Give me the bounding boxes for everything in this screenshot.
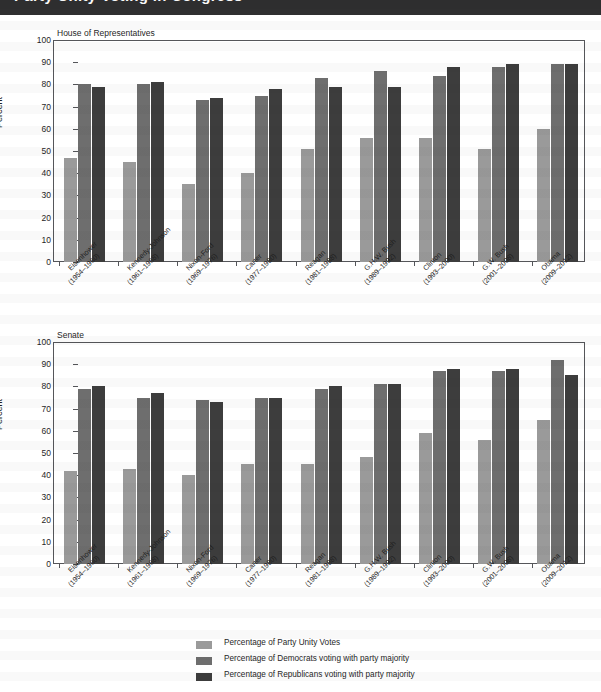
bar [506,369,519,564]
y-tick-label: 70 [25,103,51,112]
bar [478,149,491,262]
chart-legend: Percentage of Party Unity VotesPercentag… [196,637,556,685]
y-tick-label: 80 [25,382,51,391]
bar [537,129,550,262]
bar [565,64,578,262]
bar [241,173,254,262]
bar-group [360,40,401,262]
bar [329,87,342,262]
y-axis-ticks-house: 0102030405060708090100 [20,40,51,262]
bar [433,76,446,262]
bar [301,149,314,262]
y-tick-label: 30 [25,493,51,502]
y-tick-label: 100 [25,338,51,347]
bar [92,386,105,564]
bar [506,64,519,262]
bar [182,475,195,564]
bar [478,440,491,564]
y-tick-label: 10 [25,236,51,245]
bar-group [241,40,282,262]
bar-groups-house [53,40,585,262]
bar [419,433,432,564]
legend-label: Percentage of Democrats voting with part… [224,654,409,663]
y-tick-label: 90 [25,360,51,369]
chart-panel-senate: Senate Percent 0102030405060708090100 Ei… [0,330,601,642]
bar-group [64,342,105,564]
bar-group [419,342,460,564]
legend-swatch [196,657,212,665]
bar [269,89,282,262]
bar-group [301,342,342,564]
header-title: Party Unity Voting in Congress [14,0,243,4]
bar [123,469,136,564]
bar [196,100,209,262]
bar [78,389,91,564]
x-axis-labels-house: Eisenhower(1954–1960)Kennedy-Johnson(196… [53,264,593,334]
bar [78,84,91,262]
bar [388,87,401,262]
header-bar: Party Unity Voting in Congress [0,0,601,15]
chart-title-house: House of Representatives [57,28,155,38]
bar-group [360,342,401,564]
bar [92,87,105,262]
bar [137,398,150,565]
y-tick-label: 80 [25,80,51,89]
y-tick-label: 60 [25,125,51,134]
bar-group [301,40,342,262]
bar [374,384,387,564]
y-tick-label: 20 [25,516,51,525]
bar [64,158,77,262]
bar [447,369,460,564]
y-tick-label: 0 [25,560,51,569]
y-tick-label: 50 [25,147,51,156]
x-axis-labels-senate: Eisenhower(1954–1960)Kennedy-Johnson(196… [53,566,593,636]
bar [301,464,314,564]
y-tick-label: 40 [25,169,51,178]
bar-group [478,40,519,262]
bar [447,67,460,262]
bar-group [537,40,578,262]
y-tick-label: 60 [25,427,51,436]
chart-title-senate: Senate [57,330,84,340]
bar [210,98,223,262]
y-tick-label: 0 [25,258,51,267]
bar [269,398,282,565]
y-tick-label: 50 [25,449,51,458]
bar [492,67,505,262]
bar-group [182,40,223,262]
bar [419,138,432,262]
bar [315,78,328,262]
bar [255,96,268,263]
bar [492,371,505,564]
bar [255,398,268,565]
y-tick-label: 40 [25,471,51,480]
bar-group [419,40,460,262]
legend-item: Percentage of Republicans voting with pa… [196,669,556,685]
bar [329,386,342,564]
bar [374,71,387,262]
legend-label: Percentage of Party Unity Votes [224,638,340,647]
bar [537,420,550,564]
y-axis-label-house: Percent [0,97,4,128]
bar [360,138,373,262]
chart-panel-house: House of Representatives Percent 0102030… [0,28,601,338]
bar-groups-senate [53,342,585,564]
bar-group [478,342,519,564]
legend-item: Percentage of Party Unity Votes [196,637,556,653]
y-tick-label: 20 [25,214,51,223]
bar-group [123,40,164,262]
bar-group [123,342,164,564]
y-axis-label-senate: Percent [0,399,4,430]
bar-group [182,342,223,564]
bar [388,384,401,564]
bar [551,360,564,564]
bar [123,162,136,262]
y-tick-label: 30 [25,191,51,200]
legend-item: Percentage of Democrats voting with part… [196,653,556,669]
bar [210,402,223,564]
legend-swatch [196,641,212,649]
bar [64,471,77,564]
y-tick-label: 90 [25,58,51,67]
bar-group [537,342,578,564]
y-tick-label: 100 [25,36,51,45]
